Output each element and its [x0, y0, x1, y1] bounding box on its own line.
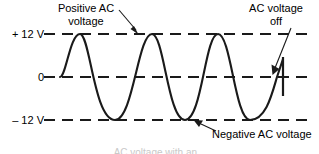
- annotation-positive-ac-line2: voltage: [48, 15, 124, 28]
- axis-label-zero: 0: [0, 71, 44, 83]
- annotation-positive-ac-voltage: Positive AC voltage: [48, 2, 124, 28]
- axis-label-plus-12v: + 12 V: [0, 28, 44, 40]
- annotation-ac-off-line2: off: [238, 15, 314, 28]
- arrow-head-negative-ac: [194, 120, 204, 127]
- figure-caption-cropped: AC voltage with an...: [0, 147, 319, 154]
- arrow-ac-voltage-off: [272, 28, 292, 75]
- ac-voltage-waveform-figure: + 12 V 0 – 12 V Positive AC voltage AC v…: [0, 0, 319, 154]
- annotation-negative-ac-voltage: Negative AC voltage: [212, 128, 312, 141]
- axis-label-minus-12v: – 12 V: [0, 114, 44, 126]
- annotation-positive-ac-line1: Positive AC: [48, 2, 124, 15]
- annotation-ac-voltage-off: AC voltage off: [238, 2, 314, 28]
- annotation-ac-off-line1: AC voltage: [238, 2, 314, 15]
- gridlines: [44, 34, 313, 120]
